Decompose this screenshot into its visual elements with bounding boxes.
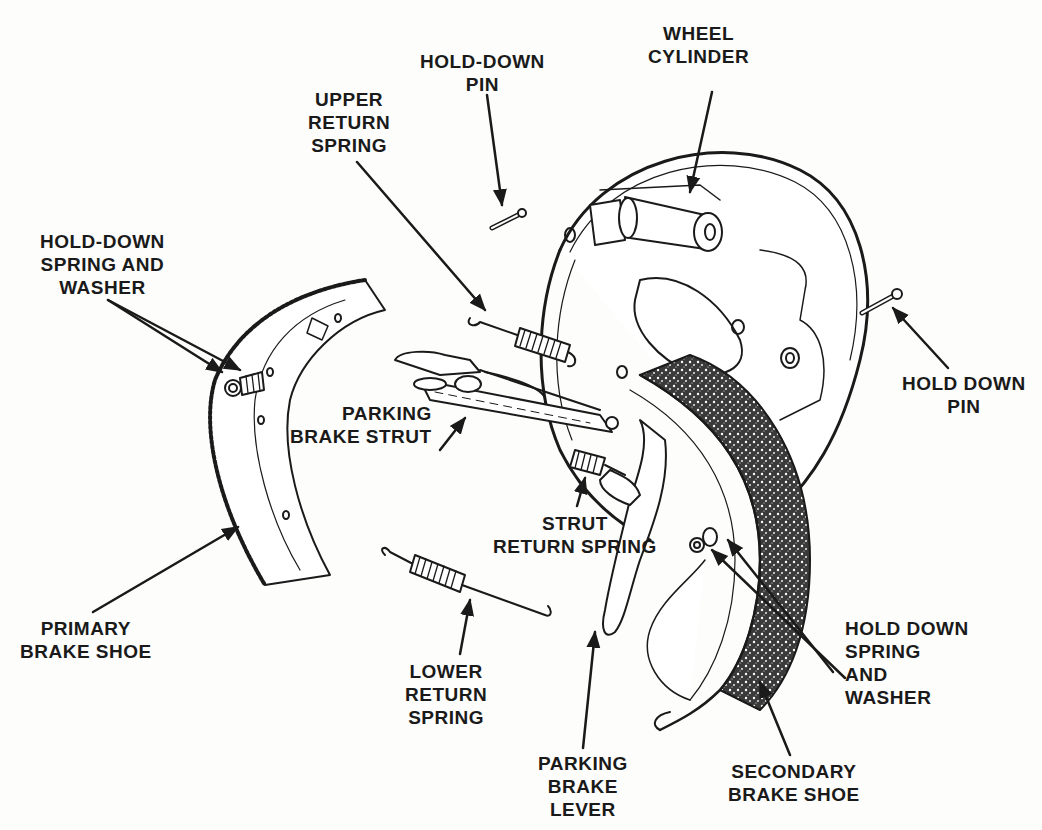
strut-return-spring-part — [570, 450, 625, 475]
label-hold-down-pin-top: HOLD-DOWN PIN — [420, 50, 545, 96]
label-wheel-cylinder: WHEEL CYLINDER — [648, 22, 749, 68]
label-parking-brake-lever: PARKING BRAKE LEVER — [538, 752, 628, 821]
lower-return-spring-part — [382, 548, 551, 616]
label-lower-return-spring: LOWER RETURN SPRING — [405, 660, 487, 729]
upper-return-spring-part — [469, 318, 576, 366]
hold-down-pin-top-part — [492, 209, 526, 228]
brake-diagram: WHEEL CYLINDER HOLD-DOWN PIN UPPER RETUR… — [0, 0, 1042, 830]
label-strut-return-spring: STRUT RETURN SPRING — [493, 512, 657, 558]
label-parking-brake-strut: PARKING BRAKE STRUT — [290, 402, 432, 448]
label-secondary-brake-shoe: SECONDARY BRAKE SHOE — [728, 760, 860, 806]
label-hold-down-pin-right: HOLD DOWN PIN — [902, 372, 1026, 418]
label-hold-down-spring-washer-left: HOLD-DOWN SPRING AND WASHER — [40, 230, 165, 299]
label-upper-return-spring: UPPER RETURN SPRING — [308, 88, 390, 157]
label-hold-down-spring-washer-right: HOLD DOWN SPRING AND WASHER — [845, 617, 969, 709]
label-primary-brake-shoe: PRIMARY BRAKE SHOE — [20, 617, 152, 663]
